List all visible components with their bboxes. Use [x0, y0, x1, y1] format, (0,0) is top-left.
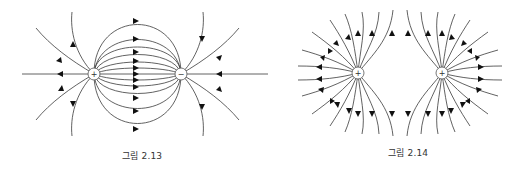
figure-2-14: [298, 10, 502, 136]
caption-figure-2-13: 그림 2.13: [122, 149, 162, 162]
field-line-diagrams: + −: [0, 0, 522, 175]
svg-text:+: +: [439, 69, 446, 78]
arrows-2-14: [316, 30, 484, 117]
svg-text:−: −: [178, 70, 185, 79]
arrows-2-13: [56, 18, 222, 132]
charges-2-14: + +: [352, 67, 448, 79]
svg-text:+: +: [355, 69, 362, 78]
svg-text:+: +: [91, 70, 98, 79]
caption-figure-2-14: 그림 2.14: [388, 146, 428, 159]
